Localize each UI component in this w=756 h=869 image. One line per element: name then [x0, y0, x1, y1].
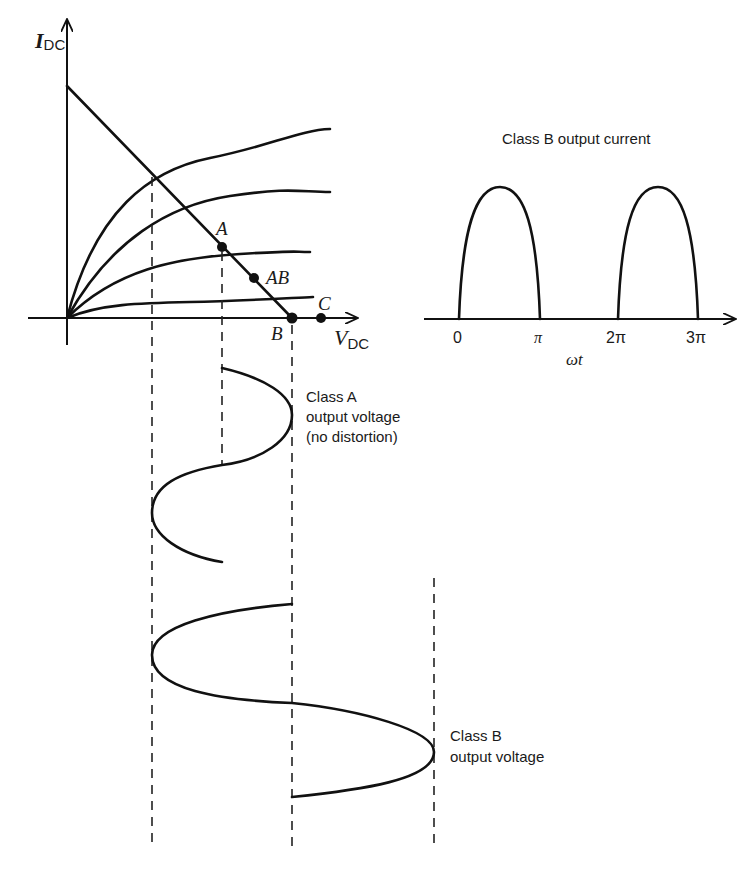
point-a-marker: [217, 242, 227, 252]
characteristic-plot: IDC VDC A AB B C: [28, 20, 369, 352]
tick-label-0: 0: [453, 329, 462, 346]
tick-label-pi: π: [534, 329, 543, 346]
point-c-label: C: [318, 293, 331, 314]
time-axis-label: ωt: [566, 350, 584, 369]
point-c-marker: [316, 313, 326, 323]
y-axis-label: IDC: [34, 28, 65, 53]
class-b-current-title: Class B output current: [502, 130, 651, 147]
tick-label-2pi: 2π: [606, 329, 626, 346]
projection-lines: [152, 177, 434, 848]
point-b-label: B: [271, 323, 283, 344]
class-b-current-plot: Class B output current 0 π 2π 3π ωt: [424, 130, 735, 369]
class-a-voltage: Class A output voltage (no distortion): [152, 368, 400, 562]
class-b-voltage: Class B output voltage: [152, 604, 544, 797]
tick-label-3pi: 3π: [686, 329, 706, 346]
point-ab-label: AB: [264, 267, 290, 288]
point-b-marker: [287, 313, 298, 324]
point-a-label: A: [214, 218, 228, 239]
x-axis-label: VDC: [334, 325, 369, 352]
class-a-label-line3: (no distortion): [306, 428, 398, 445]
class-b-voltage-waveform: [152, 604, 434, 797]
current-pulse-1: [459, 187, 540, 319]
class-b-voltage-label-line1: Class B: [450, 727, 502, 744]
class-b-voltage-label-line2: output voltage: [450, 748, 544, 765]
point-ab-marker: [249, 273, 259, 283]
characteristic-curve-1: [67, 129, 330, 318]
load-line: [67, 86, 292, 318]
amplifier-class-diagram: IDC VDC A AB B C Class A output voltage …: [0, 0, 756, 869]
current-pulse-2: [618, 187, 698, 319]
class-a-label-line1: Class A: [306, 388, 357, 405]
class-a-label-line2: output voltage: [306, 408, 400, 425]
